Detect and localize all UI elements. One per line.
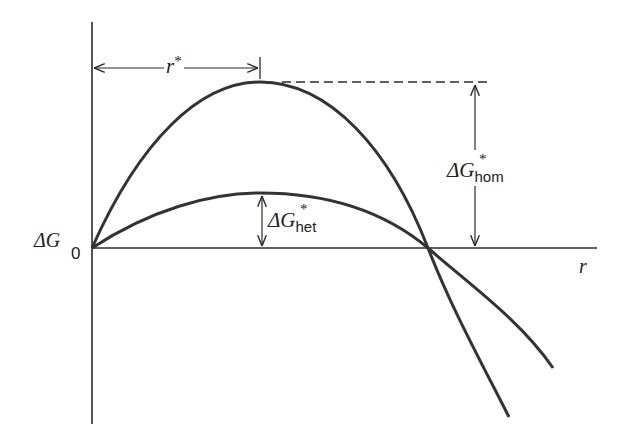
hom-barrier-label: ΔG*hom (447, 160, 504, 181)
het-barrier-sup: * (300, 202, 308, 217)
het-barrier-symbol: ΔG (268, 208, 296, 232)
x-axis-label: r (579, 256, 587, 276)
het-barrier-label: ΔG*het (268, 210, 316, 231)
heterogeneous-curve (92, 193, 553, 368)
r-star-sup: * (174, 53, 182, 69)
hom-barrier-sub: hom (475, 168, 504, 185)
het-barrier-sub: het (296, 218, 317, 235)
origin-label: 0 (71, 245, 80, 262)
y-axis-label: ΔG (34, 230, 60, 250)
hom-barrier-symbol: ΔG (447, 158, 475, 182)
r-star-label: r* (166, 56, 182, 77)
r-star-symbol: r (166, 54, 174, 78)
homogeneous-curve (92, 82, 509, 417)
hom-barrier-sup: * (479, 152, 487, 167)
